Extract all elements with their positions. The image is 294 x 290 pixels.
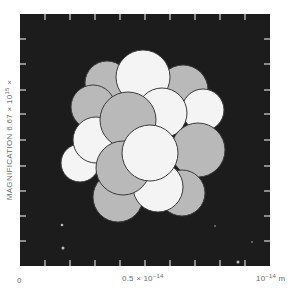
magnification-exponent: 15 bbox=[4, 87, 10, 94]
x-label-text: 0.5 × 10 bbox=[122, 274, 153, 283]
x-axis-label-zero: 0 bbox=[17, 276, 22, 285]
nucleus-diagram bbox=[0, 0, 294, 290]
speck bbox=[251, 241, 253, 243]
neutron-sphere bbox=[171, 123, 225, 177]
magnification-text: MAGNIFICATION 6.67 × 10 bbox=[5, 95, 14, 201]
x-label-exponent: −14 bbox=[265, 273, 276, 279]
x-label-unit: m bbox=[276, 274, 285, 283]
speck bbox=[214, 225, 216, 227]
proton-sphere bbox=[122, 125, 178, 181]
x-label-text: 10 bbox=[256, 274, 265, 283]
speck bbox=[237, 261, 240, 264]
x-label-text: 0 bbox=[17, 276, 22, 285]
x-axis-label-full: 10−14 m bbox=[256, 273, 285, 283]
speck bbox=[62, 247, 65, 250]
nucleus-figure: MAGNIFICATION 6.67 × 1015 × 0 0.5 × 10−1… bbox=[0, 0, 294, 290]
x-label-exponent: −14 bbox=[153, 273, 164, 279]
x-axis-label-half: 0.5 × 10−14 bbox=[122, 273, 164, 283]
magnification-suffix: × bbox=[5, 80, 14, 88]
speck bbox=[61, 224, 64, 227]
magnification-label: MAGNIFICATION 6.67 × 1015 × bbox=[4, 80, 14, 200]
